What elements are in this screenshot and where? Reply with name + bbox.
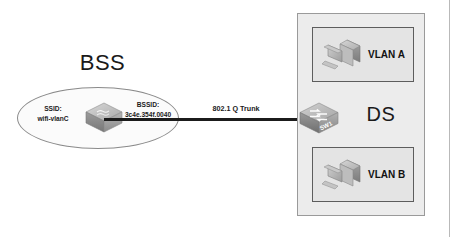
ssid-label: SSID: wifi-vlanC bbox=[26, 104, 80, 123]
ssid-value: wifi-vlanC bbox=[26, 114, 80, 124]
ssid-caption: SSID: bbox=[26, 104, 80, 114]
bss-title: BSS bbox=[60, 50, 145, 76]
vlan-b-label: VLAN B bbox=[368, 169, 405, 180]
trunk-link-label: 802.1 Q Trunk bbox=[194, 104, 278, 113]
workstation-icon-a bbox=[322, 32, 366, 74]
network-diagram-canvas: BSS SSID: wifi-vlanC BSSID: 3c4e.354f.00… bbox=[0, 0, 450, 237]
ds-label: DS bbox=[356, 103, 406, 126]
trunk-link-line bbox=[104, 118, 306, 121]
switch-icon: SW1 bbox=[298, 101, 340, 139]
vlan-a-label: VLAN A bbox=[368, 49, 405, 60]
workstation-icon-b bbox=[322, 152, 366, 194]
